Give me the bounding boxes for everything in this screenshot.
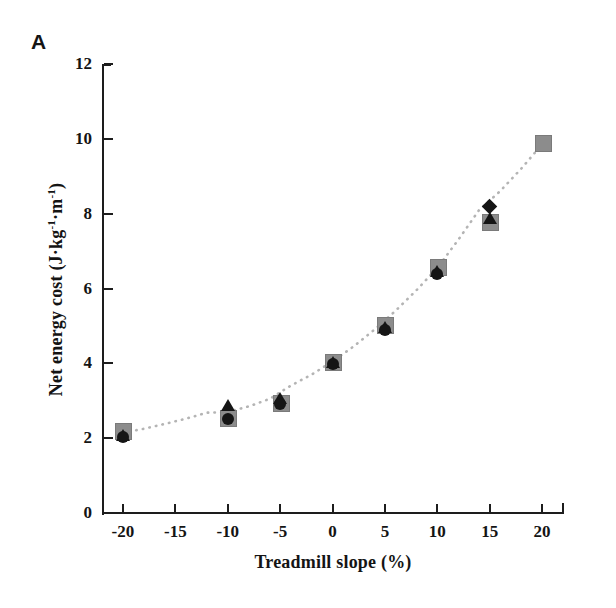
figure-panel-a: A 024681012-20-15-10-505101520 Treadmill…: [0, 0, 616, 608]
trendline-curve: [0, 0, 616, 608]
